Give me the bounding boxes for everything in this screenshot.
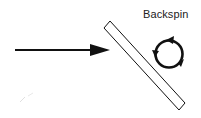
backspin-label: Backspin [143,8,188,20]
faint-mark [20,93,33,102]
backspin-rotation-icon [152,36,184,68]
paddle [104,21,185,110]
incoming-arrow [15,44,110,56]
